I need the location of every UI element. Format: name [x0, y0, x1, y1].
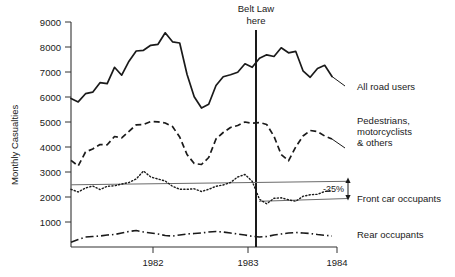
series-pedestrians-motorcyclists-others	[71, 122, 332, 167]
leader-pedestrians	[332, 139, 345, 148]
leader-all-road-users	[332, 77, 345, 87]
label-front-car-occupants: Front car occupants	[357, 193, 441, 204]
belt-law-marker: Belt Law here	[238, 3, 275, 247]
label-pedestrians-line1: Pedestrians,	[357, 115, 410, 126]
label-pedestrians-line2: motorcyclists	[357, 126, 412, 137]
reduction-arrow-head-down	[345, 195, 350, 201]
label-rear-occupants: Rear occupants	[357, 229, 424, 240]
y-tick-1000: 1000	[40, 217, 61, 228]
series-leader-lines	[332, 77, 345, 149]
x-axis-tick-labels: 1982 1983 1984	[142, 257, 347, 268]
reduction-arrow-head-up	[345, 178, 350, 184]
y-axis-title: Monthly Casualties	[9, 104, 20, 185]
x-tick-1984: 1984	[326, 257, 347, 268]
series-labels: All road users Pedestrians, motorcyclist…	[357, 81, 441, 240]
y-tick-2000: 2000	[40, 192, 61, 203]
front-car-trend-lines	[71, 181, 348, 201]
reduction-label: -25%	[323, 184, 344, 194]
y-axis-ticks	[65, 22, 71, 222]
y-tick-4000: 4000	[40, 142, 61, 153]
y-tick-3000: 3000	[40, 167, 61, 178]
axes	[65, 22, 337, 253]
y-tick-7000: 7000	[40, 67, 61, 78]
belt-law-label-line1: Belt Law	[238, 3, 275, 14]
series-rear-occupants	[71, 231, 332, 243]
x-tick-1982: 1982	[142, 257, 163, 268]
belt-law-label-line2: here	[246, 15, 265, 26]
y-axis-tick-labels: 9000 8000 7000 6000 5000 4000 3000 2000 …	[40, 17, 61, 228]
series-all-road-users	[71, 33, 332, 108]
chart-figure: 9000 8000 7000 6000 5000 4000 3000 2000 …	[0, 0, 455, 277]
label-all-road-users: All road users	[357, 81, 415, 92]
x-axis-ticks	[153, 247, 337, 253]
series-front-car-occupants	[71, 171, 332, 204]
y-tick-9000: 9000	[40, 17, 61, 28]
y-tick-6000: 6000	[40, 92, 61, 103]
y-tick-5000: 5000	[40, 117, 61, 128]
label-pedestrians-line3: & others	[357, 137, 393, 148]
x-tick-1983: 1983	[237, 257, 258, 268]
pre-law-trend-line	[71, 181, 348, 185]
casualties-line-chart: 9000 8000 7000 6000 5000 4000 3000 2000 …	[0, 0, 455, 277]
y-tick-8000: 8000	[40, 42, 61, 53]
